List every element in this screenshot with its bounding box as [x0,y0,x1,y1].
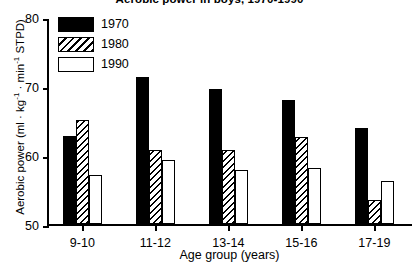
legend-item-1970: 1970 [58,16,129,33]
bar-11-12-1990 [162,160,175,224]
bar-9-10-1970 [63,136,76,224]
y-axis-title-exponent-1: -1 [12,93,21,100]
bar-13-14-1970 [209,89,222,224]
y-axis-tick: 60 [43,157,49,159]
y-axis-tick-label: 70 [25,81,39,95]
legend-swatch-1970-icon [58,17,94,32]
bar-15-16-1990 [308,168,321,224]
legend-swatch-1990-icon [58,57,94,72]
bar-15-16-1970 [282,100,295,224]
x-axis-tick [374,224,376,231]
bar-13-14-1990 [235,170,248,224]
chart-title: Aerobic power in boys, 1970-1990 [0,0,419,5]
x-axis-title: Age group (years) [47,248,412,262]
bar-9-10-1980 [76,120,89,224]
bar-13-14-1980 [222,150,235,224]
y-axis-tick: 70 [43,88,49,90]
legend-swatch-1980-icon [58,37,94,52]
y-axis-tick-label: 50 [25,219,39,233]
y-axis-title-exponent-2: -1 [12,57,21,64]
x-axis-tick [82,224,84,231]
y-axis-tick: 50 [43,226,49,228]
chart-legend: 1970 1980 1990 [58,16,129,76]
y-axis-tick-label: 80 [25,12,39,26]
aerobic-power-bar-chart: Aerobic power in boys, 1970-1990 Aerobic… [0,0,419,269]
y-axis-tick: 80 [43,19,49,21]
x-axis-tick [155,224,157,231]
bar-17-19-1980 [368,200,381,224]
bar-11-12-1970 [136,77,149,224]
bar-9-10-1990 [89,175,102,224]
legend-label-1970: 1970 [101,18,129,31]
x-axis-tick [301,224,303,231]
legend-label-1980: 1980 [101,38,129,51]
bar-11-12-1980 [149,150,162,224]
bar-17-19-1970 [355,128,368,224]
legend-item-1980: 1980 [58,36,129,53]
bar-17-19-1990 [381,181,394,224]
legend-label-1990: 1990 [101,58,129,71]
y-axis-tick-label: 60 [25,150,39,164]
bar-15-16-1980 [295,137,308,224]
y-axis-title: Aerobic power (ml · kg-1 · min-1 STPD) [12,0,26,242]
x-axis-tick [228,224,230,231]
legend-item-1990: 1990 [58,56,129,73]
